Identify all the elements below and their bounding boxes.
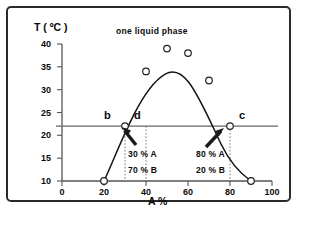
y-tick-label: 15 bbox=[31, 154, 51, 163]
y-tick-label: 25 bbox=[31, 109, 51, 118]
x-tick-label: 0 bbox=[52, 188, 72, 197]
data-point bbox=[164, 45, 171, 52]
left-annotation-line2: 70 % B bbox=[128, 166, 157, 175]
x-axis-title: A % bbox=[148, 196, 167, 207]
point-label-b: b bbox=[104, 110, 111, 121]
x-tick-marks bbox=[62, 181, 272, 186]
data-point bbox=[143, 68, 150, 75]
y-tick-marks bbox=[57, 44, 62, 181]
y-axis-title: T ( ºC ) bbox=[34, 22, 68, 33]
x-tick-label: 100 bbox=[262, 188, 282, 197]
y-tick-label: 35 bbox=[31, 63, 51, 72]
point-label-d: d bbox=[134, 110, 141, 121]
left-annotation-line1: 30 % A bbox=[128, 150, 157, 159]
data-point bbox=[206, 77, 213, 84]
right-annotation-line2: 20 % B bbox=[196, 166, 225, 175]
y-tick-label: 40 bbox=[31, 40, 51, 49]
data-point bbox=[248, 178, 255, 185]
y-tick-label: 30 bbox=[31, 86, 51, 95]
data-point-markers bbox=[101, 45, 255, 184]
y-tick-label: 20 bbox=[31, 131, 51, 140]
data-point bbox=[101, 178, 108, 185]
point-label-c: c bbox=[239, 110, 245, 121]
x-tick-label: 60 bbox=[178, 188, 198, 197]
y-tick-label: 10 bbox=[31, 177, 51, 186]
chart-title: one liquid phase bbox=[116, 27, 188, 36]
x-tick-label: 80 bbox=[220, 188, 240, 197]
data-point bbox=[185, 50, 192, 57]
right-annotation-line1: 80 % A bbox=[196, 150, 225, 159]
x-tick-label: 20 bbox=[94, 188, 114, 197]
data-point bbox=[227, 123, 234, 130]
